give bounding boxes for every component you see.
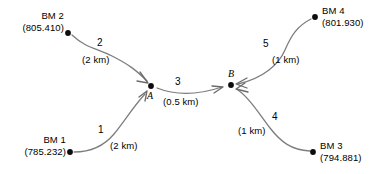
benchmark-label-bm2: BM 2 (805.410) (2, 10, 64, 33)
benchmark-name-bm4: BM 4 (322, 5, 386, 17)
benchmark-name-bm1: BM 1 (4, 134, 66, 146)
junction-label-a: A (147, 90, 153, 102)
route-5-number: 5 (263, 38, 269, 50)
benchmark-name-bm2: BM 2 (2, 10, 64, 22)
route-4-distance: (1 km) (238, 125, 266, 137)
route-4-number: 4 (272, 111, 278, 123)
route-2-distance: (2 km) (82, 54, 110, 66)
benchmark-label-bm4: BM 4 (801.930) (322, 5, 386, 28)
route-1-distance: (2 km) (110, 140, 138, 152)
route-1-number: 1 (98, 124, 104, 136)
node-dot-bm1 (67, 149, 73, 155)
node-dot-bm3 (310, 149, 316, 155)
route-3-number: 3 (175, 76, 181, 88)
junction-label-b: B (228, 68, 234, 80)
route-5-distance: (1 km) (272, 54, 300, 66)
node-dot-bm4 (312, 14, 318, 20)
node-dot-b (228, 82, 234, 88)
benchmark-name-bm3: BM 3 (320, 140, 384, 152)
benchmark-label-bm1: BM 1 (785.232) (4, 134, 66, 157)
benchmark-elevation-bm1: (785.232) (4, 146, 66, 158)
route-3-distance: (0.5 km) (163, 96, 199, 108)
route-2-number: 2 (97, 37, 103, 49)
node-dot-bm2 (65, 30, 71, 36)
benchmark-elevation-bm3: (794.881) (320, 152, 384, 164)
node-dot-a (148, 83, 154, 89)
benchmark-elevation-bm4: (801.930) (322, 17, 386, 29)
route-3-path (157, 87, 222, 94)
benchmark-elevation-bm2: (805.410) (2, 22, 64, 34)
leveling-network-diagram: BM 2 (805.410) BM 4 (801.930) BM 1 (785.… (0, 0, 388, 174)
benchmark-label-bm3: BM 3 (794.881) (320, 140, 384, 163)
route-5-path (238, 19, 311, 84)
